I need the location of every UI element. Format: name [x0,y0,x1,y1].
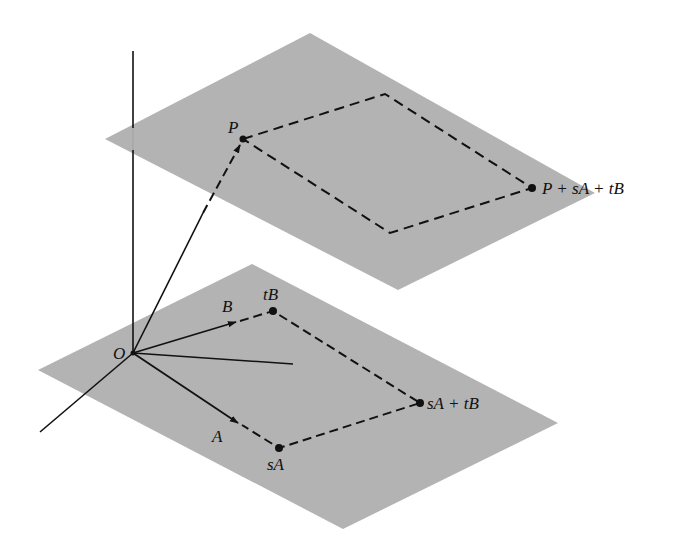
label-b: B [222,297,233,316]
point-p-sa-tb [528,184,536,192]
point-tb [269,307,277,315]
point-sa-tb [416,399,424,407]
diagram-canvas: O P P + sA + tB B tB A sA sA + tB [0,0,682,551]
point-sa [275,444,283,452]
label-sa: sA [267,455,285,474]
label-origin: O [113,344,125,363]
label-p: P [227,118,238,137]
point-origin [131,351,136,356]
point-p [240,136,247,143]
lower-plane [38,264,558,529]
upper-plane [105,33,595,290]
label-sa-tb: sA + tB [427,394,479,413]
label-p-sa-tb: P + sA + tB [541,179,624,198]
label-a: A [211,427,223,446]
label-tb: tB [263,285,279,304]
